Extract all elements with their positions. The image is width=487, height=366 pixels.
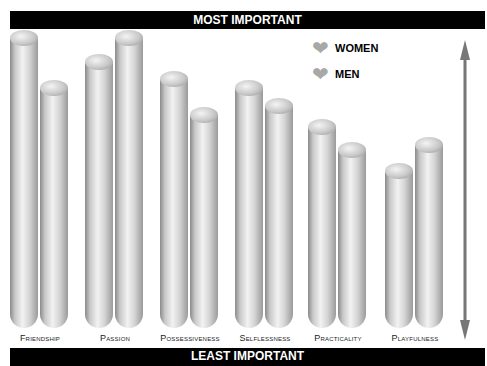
- category-label: Possessiveness: [152, 333, 228, 343]
- bar-men-passion: [115, 38, 143, 328]
- bar-women-playfulness: [385, 171, 413, 328]
- bar-men-possessiveness: [190, 115, 218, 328]
- category-label: Playfulness: [377, 333, 453, 343]
- bar-men-playfulness: [415, 145, 443, 328]
- category-label: Selflessness: [227, 333, 303, 343]
- bar-women-passion: [85, 62, 113, 328]
- bar-women-practicality: [308, 127, 336, 328]
- heart-icon: ❤: [312, 38, 329, 58]
- bar-women-possessiveness: [160, 79, 188, 328]
- bar-women-friendship: [10, 38, 38, 328]
- legend-men: ❤MEN: [312, 64, 359, 84]
- heart-icon: ❤: [312, 64, 329, 84]
- bar-men-selflessness: [265, 106, 293, 328]
- bar-men-friendship: [40, 88, 68, 328]
- importance-double-arrow-icon: [460, 40, 470, 340]
- bar-men-practicality: [338, 150, 366, 328]
- bar-women-selflessness: [235, 88, 263, 328]
- category-label: Friendship: [2, 333, 78, 343]
- category-label: Practicality: [300, 333, 376, 343]
- legend-women: ❤WOMEN: [312, 38, 378, 58]
- category-label: Passion: [77, 333, 153, 343]
